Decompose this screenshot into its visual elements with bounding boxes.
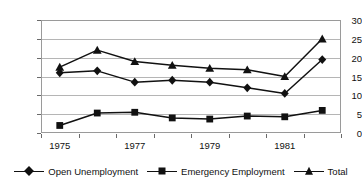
y-axis-tick-label: 20 (328, 53, 362, 62)
gridline (42, 95, 340, 96)
x-axis-tick-mark (304, 134, 305, 138)
legend-marker-glyph (305, 167, 313, 175)
y-axis-tick-mark (37, 20, 41, 21)
x-axis-tick-mark (341, 134, 342, 138)
legend-marker-glyph (24, 166, 34, 176)
legend-entry[interactable]: Total (294, 165, 348, 177)
chart-container: 051015202530 1975197719791981 Open Unemp… (0, 0, 362, 187)
legend-label: Emergency Employment (181, 166, 284, 177)
x-axis-tick-label: 1979 (199, 140, 220, 151)
x-axis-tick-label: 1981 (274, 140, 295, 151)
gridline (42, 39, 340, 40)
x-axis-tick-mark (79, 134, 80, 138)
plot-area (41, 20, 341, 133)
x-axis-tick-label: 1977 (124, 140, 145, 151)
x-axis-tick-mark (266, 134, 267, 138)
gridline (42, 58, 340, 59)
y-axis-tick-mark (37, 95, 41, 96)
legend-entry[interactable]: Emergency Employment (147, 165, 284, 177)
x-axis-tick-mark (191, 134, 192, 138)
y-axis-tick-label: 0 (328, 129, 362, 138)
legend-label: Total (328, 166, 348, 177)
y-axis-tick-mark (37, 39, 41, 40)
gridline (42, 77, 340, 78)
y-axis-tick-label: 10 (328, 91, 362, 100)
y-axis-tick-label: 30 (328, 16, 362, 25)
x-axis-tick-mark (229, 134, 230, 138)
y-axis-tick-label: 25 (328, 34, 362, 43)
x-axis-tick-mark (116, 134, 117, 138)
gridline (42, 114, 340, 115)
y-axis-tick-label: 5 (328, 110, 362, 119)
y-axis-tick-mark (37, 58, 41, 59)
x-axis-tick-label: 1975 (49, 140, 70, 151)
y-axis-tick-mark (37, 77, 41, 78)
legend-label: Open Unemployment (48, 166, 138, 177)
legend-entry[interactable]: Open Unemployment (14, 165, 138, 177)
x-axis-tick-mark (41, 134, 42, 138)
legend-marker-diamond-icon (14, 165, 44, 177)
legend-marker-glyph (159, 168, 166, 175)
y-axis-tick-mark (37, 114, 41, 115)
legend-marker-square-icon (147, 165, 177, 177)
chart-legend: Open UnemploymentEmergency EmploymentTot… (0, 160, 362, 182)
x-axis-tick-mark (154, 134, 155, 138)
legend-marker-triangle-icon (294, 165, 324, 177)
y-axis-tick-label: 15 (328, 72, 362, 81)
